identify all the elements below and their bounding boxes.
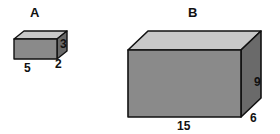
prism-b-top-face bbox=[128, 31, 261, 50]
prism-a-front-face bbox=[14, 39, 57, 59]
prism-b-shape bbox=[128, 31, 261, 117]
prism-a-width-label: 5 bbox=[24, 62, 31, 74]
prism-b-front-face bbox=[128, 50, 241, 117]
prism-b-name-label: B bbox=[188, 6, 197, 19]
prism-b-depth-label: 6 bbox=[250, 112, 257, 124]
prism-b-width-label: 15 bbox=[177, 120, 190, 132]
prism-a-name-label: A bbox=[30, 6, 39, 19]
prism-a-depth-label: 2 bbox=[55, 58, 62, 70]
prism-a-height-label: 3 bbox=[60, 38, 67, 50]
prism-b-height-label: 9 bbox=[254, 76, 261, 88]
prism-figure-canvas bbox=[0, 0, 280, 134]
